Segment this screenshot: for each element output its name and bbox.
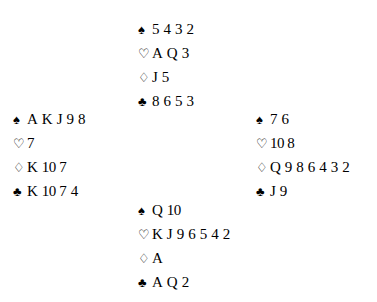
club-icon: ♣ (13, 185, 26, 198)
bridge-deal-diagram: ♠ 5432 ♡ AQ3 ♢ J5 ♣ 8653 ♠ AKJ98 ♡ 7 ♢ K… (0, 0, 377, 302)
diamond-icon: ♢ (138, 71, 151, 84)
north-heart-ranks: AQ3 (152, 46, 190, 61)
north-club-ranks: 8653 (152, 94, 195, 109)
card-rank: 7 (27, 135, 35, 151)
card-rank: K (152, 226, 163, 242)
north-heart-row: ♡ AQ3 (138, 46, 195, 70)
card-rank: Q (152, 202, 163, 218)
card-rank: 4 (319, 159, 327, 175)
card-rank: J (57, 111, 63, 127)
club-icon: ♣ (138, 276, 151, 289)
card-rank: 10 (167, 202, 181, 218)
card-rank: A (152, 250, 163, 266)
east-diamond-ranks: Q986432 (270, 160, 350, 175)
south-spade-ranks: Q10 (152, 203, 181, 218)
west-diamond-ranks: K107 (27, 160, 67, 175)
heart-icon: ♡ (13, 137, 26, 150)
card-rank: 3 (175, 21, 183, 37)
south-club-ranks: AQ2 (152, 275, 190, 290)
heart-icon: ♡ (256, 137, 269, 150)
card-rank: 10 (42, 183, 56, 199)
card-rank: 2 (223, 226, 231, 242)
south-heart-row: ♡ KJ96542 (138, 227, 231, 251)
card-rank: 10 (42, 159, 56, 175)
club-icon: ♣ (138, 95, 151, 108)
card-rank: 9 (67, 111, 75, 127)
card-rank: 4 (71, 183, 79, 199)
hand-south: ♠ Q10 ♡ KJ96542 ♢ A ♣ AQ2 (138, 203, 231, 299)
card-rank: 6 (188, 226, 196, 242)
card-rank: 8 (296, 159, 304, 175)
west-club-ranks: K1074 (27, 184, 79, 199)
hand-north: ♠ 5432 ♡ AQ3 ♢ J5 ♣ 8653 (138, 22, 195, 118)
card-rank: 2 (342, 159, 350, 175)
south-spade-row: ♠ Q10 (138, 203, 231, 227)
west-heart-row: ♡ 7 (13, 136, 86, 160)
card-rank: 6 (164, 93, 172, 109)
card-rank: 5 (200, 226, 208, 242)
card-rank: J (167, 226, 173, 242)
card-rank: Q (167, 274, 178, 290)
east-heart-ranks: 108 (270, 136, 295, 151)
card-rank: 2 (182, 274, 190, 290)
card-rank: 7 (270, 111, 278, 127)
spade-icon: ♠ (138, 204, 151, 217)
north-spade-row: ♠ 5432 (138, 22, 195, 46)
west-spade-row: ♠ AKJ98 (13, 112, 86, 136)
west-diamond-row: ♢ K107 (13, 160, 86, 184)
card-rank: 9 (285, 159, 293, 175)
card-rank: A (152, 45, 163, 61)
east-spade-ranks: 76 (270, 112, 290, 127)
diamond-icon: ♢ (13, 161, 26, 174)
card-rank: 3 (331, 159, 339, 175)
west-heart-ranks: 7 (27, 136, 35, 151)
card-rank: 8 (287, 135, 295, 151)
west-club-row: ♣ K1074 (13, 184, 86, 208)
east-club-row: ♣ J9 (256, 184, 350, 208)
north-spade-ranks: 5432 (152, 22, 195, 37)
card-rank: A (152, 274, 163, 290)
card-rank: J (152, 69, 158, 85)
east-club-ranks: J9 (270, 184, 288, 199)
card-rank: 4 (164, 21, 172, 37)
card-rank: 6 (282, 111, 290, 127)
north-diamond-ranks: J5 (152, 70, 170, 85)
north-diamond-row: ♢ J5 (138, 70, 195, 94)
heart-icon: ♡ (138, 47, 151, 60)
card-rank: 7 (59, 183, 67, 199)
card-rank: 3 (187, 93, 195, 109)
hand-west: ♠ AKJ98 ♡ 7 ♢ K107 ♣ K1074 (13, 112, 86, 208)
card-rank: 7 (59, 159, 67, 175)
west-spade-ranks: AKJ98 (27, 112, 86, 127)
diamond-icon: ♢ (138, 252, 151, 265)
card-rank: 9 (177, 226, 185, 242)
card-rank: 5 (152, 21, 160, 37)
card-rank: K (27, 183, 38, 199)
south-diamond-row: ♢ A (138, 251, 231, 275)
heart-icon: ♡ (138, 228, 151, 241)
south-diamond-ranks: A (152, 251, 163, 266)
card-rank: Q (270, 159, 281, 175)
diamond-icon: ♢ (256, 161, 269, 174)
south-club-row: ♣ AQ2 (138, 275, 231, 299)
card-rank: J (270, 183, 276, 199)
card-rank: Q (167, 45, 178, 61)
hand-east: ♠ 76 ♡ 108 ♢ Q986432 ♣ J9 (256, 112, 350, 208)
spade-icon: ♠ (13, 113, 26, 126)
card-rank: 9 (280, 183, 288, 199)
card-rank: K (27, 159, 38, 175)
card-rank: 10 (270, 135, 284, 151)
card-rank: 2 (187, 21, 195, 37)
card-rank: 8 (78, 111, 86, 127)
north-club-row: ♣ 8653 (138, 94, 195, 118)
card-rank: K (42, 111, 53, 127)
east-spade-row: ♠ 76 (256, 112, 350, 136)
card-rank: 6 (308, 159, 316, 175)
card-rank: A (27, 111, 38, 127)
east-heart-row: ♡ 108 (256, 136, 350, 160)
club-icon: ♣ (256, 185, 269, 198)
card-rank: 5 (162, 69, 170, 85)
card-rank: 5 (175, 93, 183, 109)
card-rank: 3 (182, 45, 190, 61)
card-rank: 4 (211, 226, 219, 242)
